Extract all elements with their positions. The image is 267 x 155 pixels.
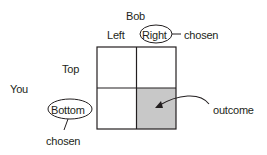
row-label-top: Top [62, 63, 79, 75]
outcome-cell [137, 88, 176, 129]
row-chosen-annotation: chosen [46, 135, 80, 147]
column-player-label: Bob [126, 10, 145, 22]
bottom-chosen-connector [64, 119, 68, 130]
column-label-left: Left [107, 29, 125, 41]
outcome-label: outcome [213, 104, 254, 116]
payoff-matrix-diagram [0, 0, 267, 155]
column-chosen-annotation: chosen [184, 29, 218, 41]
row-label-bottom: Bottom [51, 104, 85, 116]
column-label-right: Right [142, 29, 167, 41]
row-player-label: You [10, 83, 28, 95]
